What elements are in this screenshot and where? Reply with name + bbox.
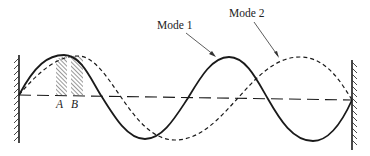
mode-2-label: Mode 2 bbox=[229, 7, 265, 19]
mode-1-label: Mode 1 bbox=[157, 19, 193, 31]
baseline bbox=[19, 95, 352, 100]
region-B bbox=[71, 56, 83, 95]
left-wall bbox=[14, 55, 19, 143]
point-A-label: A bbox=[55, 98, 64, 110]
mode-1-annotation: Mode 1 bbox=[157, 19, 216, 57]
mode-2-annotation: Mode 2 bbox=[229, 7, 279, 58]
point-B-label: B bbox=[71, 98, 78, 110]
right-wall bbox=[352, 60, 357, 150]
standing-wave-diagram: Mode 1 Mode 2 A B bbox=[0, 0, 370, 156]
